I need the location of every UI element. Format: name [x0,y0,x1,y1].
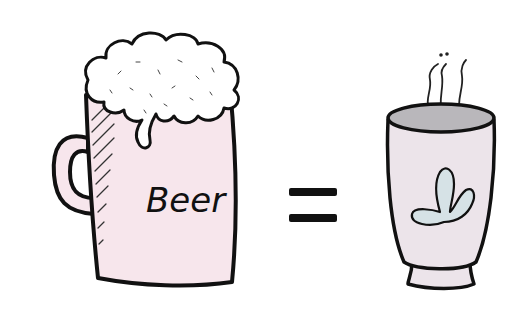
beer-label: Beer [146,180,227,220]
equals-sign [289,188,337,222]
tea-cup [388,53,495,288]
beer-equals-tea-illustration: Beer [0,0,528,311]
illustration-svg: Beer [0,0,528,311]
beer-mug: Beer [54,33,239,286]
tea-surface [388,104,494,132]
equals-bottom-bar [289,214,337,222]
equals-top-bar [289,188,337,196]
